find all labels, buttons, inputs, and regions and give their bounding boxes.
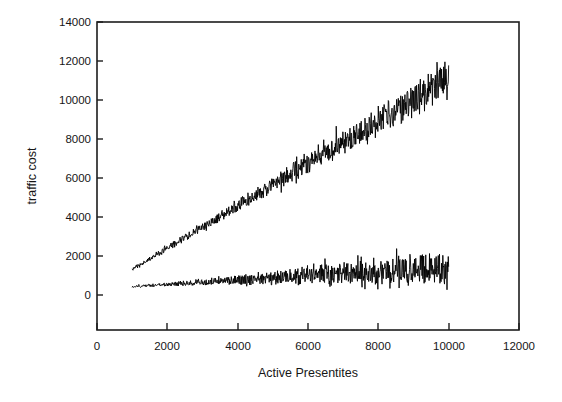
x-tick-label-0: 0 bbox=[94, 340, 100, 352]
y-tick-label-4000: 4000 bbox=[65, 211, 91, 223]
y-tick-label-14000: 14000 bbox=[59, 16, 91, 28]
y-axis-tick-labels: 0 2000 4000 6000 8000 10000 12000 14000 bbox=[59, 16, 91, 301]
chart-figure: 0 2000 4000 6000 8000 10000 12000 14000 … bbox=[0, 0, 562, 402]
x-tick-label-12000: 12000 bbox=[503, 340, 535, 352]
y-tick-label-8000: 8000 bbox=[65, 133, 91, 145]
x-axis-ticks bbox=[97, 323, 519, 330]
traffic-cost-line-chart: 0 2000 4000 6000 8000 10000 12000 14000 … bbox=[0, 0, 562, 402]
plot-frame bbox=[97, 22, 519, 330]
x-tick-label-8000: 8000 bbox=[365, 340, 391, 352]
series-upper-traffic-cost bbox=[132, 62, 449, 270]
x-tick-label-2000: 2000 bbox=[154, 340, 180, 352]
x-tick-label-10000: 10000 bbox=[433, 340, 465, 352]
y-tick-label-12000: 12000 bbox=[59, 55, 91, 67]
x-tick-label-6000: 6000 bbox=[295, 340, 321, 352]
y-tick-label-6000: 6000 bbox=[65, 172, 91, 184]
y-tick-label-0: 0 bbox=[85, 289, 91, 301]
series-lower-traffic-cost bbox=[132, 249, 449, 290]
y-axis-ticks bbox=[97, 22, 103, 295]
y-axis-title: traffic cost bbox=[25, 147, 39, 204]
x-axis-title: Active Presentites bbox=[258, 366, 358, 380]
x-axis-tick-labels: 0 2000 4000 6000 8000 10000 12000 bbox=[94, 340, 535, 352]
y-tick-label-2000: 2000 bbox=[65, 250, 91, 262]
x-tick-label-4000: 4000 bbox=[225, 340, 251, 352]
data-series-group bbox=[132, 62, 449, 290]
y-tick-label-10000: 10000 bbox=[59, 94, 91, 106]
